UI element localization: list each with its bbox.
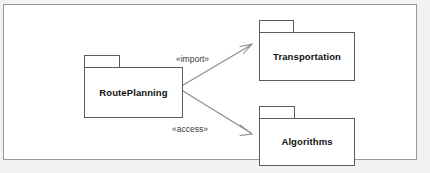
- package-body-algorithms: Algorithms: [259, 118, 355, 166]
- access-arrowhead-icon: [240, 125, 252, 136]
- stereotype-label-access: «access»: [172, 125, 208, 134]
- diagram-canvas: RoutePlanning Transportation Algorithms …: [0, 0, 430, 173]
- diagram-frame: RoutePlanning Transportation Algorithms …: [3, 4, 417, 160]
- import-arrowhead-icon: [240, 44, 252, 53]
- package-label-transportation: Transportation: [273, 52, 341, 62]
- package-label-routeplanning: RoutePlanning: [99, 88, 167, 98]
- package-body-routeplanning: RoutePlanning: [84, 67, 183, 118]
- import-dependency-line: [179, 45, 251, 88]
- package-body-transportation: Transportation: [259, 32, 355, 81]
- package-label-algorithms: Algorithms: [281, 137, 332, 147]
- dependency-edges-layer: [0, 0, 430, 173]
- stereotype-label-import: «import»: [176, 55, 209, 64]
